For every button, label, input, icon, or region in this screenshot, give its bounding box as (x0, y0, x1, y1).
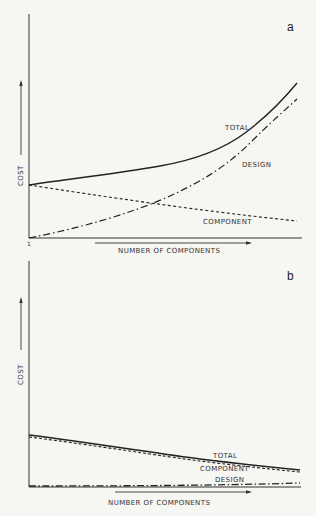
y-direction-arrow-icon (19, 297, 22, 350)
panel-letter-a: a (287, 20, 294, 34)
y-axis-label: COST (17, 364, 25, 385)
chart-panel-a: COST NUMBER OF COMPONENTS 1 a TOTAL DESI… (17, 14, 302, 255)
label-design: DESIGN (215, 476, 244, 484)
series-total-line (29, 435, 300, 470)
x-tick-one: 1 (27, 240, 31, 247)
x-axis-label: NUMBER OF COMPONENTS (118, 247, 220, 255)
x-direction-arrow-icon (95, 241, 252, 244)
label-total: TOTAL (212, 452, 237, 460)
y-direction-arrow-icon (19, 80, 22, 155)
series-total-line (29, 83, 297, 185)
label-design: DESIGN (242, 161, 271, 169)
x-direction-arrow-icon (115, 490, 252, 493)
x-axis-label: NUMBER OF COMPONENTS (108, 499, 210, 507)
label-component: COMPONENT (200, 465, 249, 473)
figure: COST NUMBER OF COMPONENTS 1 a TOTAL DESI… (0, 0, 316, 516)
series-component-line (29, 185, 297, 221)
y-axis-label: COST (17, 165, 25, 186)
series-design-line (29, 483, 300, 486)
label-total: TOTAL (224, 124, 249, 132)
label-component: COMPONENT (203, 218, 252, 226)
chart-panel-b: COST NUMBER OF COMPONENTS b TOTAL COMPON… (17, 261, 301, 507)
panel-letter-b: b (287, 269, 294, 283)
